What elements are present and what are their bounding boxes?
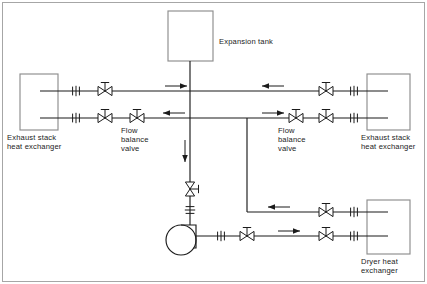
gate-valve-mid-right-b <box>319 110 333 123</box>
flow-arrow-mid-right <box>262 110 284 116</box>
globe-valve-pump-suction <box>185 182 198 196</box>
gate-valve-pump-discharge-b <box>319 228 333 241</box>
circulating-pump-casing <box>166 225 196 255</box>
flow-arrow-top-left <box>165 83 187 89</box>
gate-valve-dryer-return <box>319 204 333 217</box>
exhaust-stack-hx-right-body <box>367 74 410 130</box>
diagram-canvas: .pipe { stroke:#1b1b1b; stroke-width:1.1… <box>0 0 427 284</box>
gate-valve-top-left <box>98 83 112 96</box>
dryer-hx-body <box>367 200 410 254</box>
exhaust-stack-hx-left-body <box>20 74 58 130</box>
flow-arrow-top-right <box>262 83 284 89</box>
label-flow-balance-valve-left: Flow balance valve <box>121 126 149 154</box>
label-exhaust-stack-heat-exchanger-right: Exhaust stack heat exchanger <box>361 133 415 151</box>
circulating-pump-volute <box>181 225 196 248</box>
flow-arrow-dryer-return <box>268 204 290 210</box>
gate-valve-mid-right-a <box>289 110 303 123</box>
gate-valve-pump-discharge-a <box>240 228 254 241</box>
flow-arrow-center-down <box>182 140 188 162</box>
flow-arrow-pump-discharge <box>278 228 300 234</box>
label-exhaust-stack-heat-exchanger-left: Exhaust stack heat exchanger <box>7 133 61 151</box>
label-expansion-tank: Expansion tank <box>219 37 273 46</box>
flow-arrow-mid-left <box>163 110 185 116</box>
label-dryer-heat-exchanger: Dryer heat exchanger <box>361 257 398 275</box>
label-flow-balance-valve-right: Flow balance valve <box>278 126 306 154</box>
expansion-tank-body <box>168 11 213 61</box>
gate-valve-mid-left-a <box>98 110 112 123</box>
gate-valve-top-right <box>319 83 333 96</box>
gate-valve-mid-left-b <box>130 110 144 123</box>
